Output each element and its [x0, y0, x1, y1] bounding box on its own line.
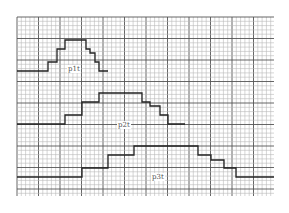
pulse-label-p1: p1t [67, 65, 81, 73]
graph-paper-diagram [0, 0, 289, 213]
pulse-label-p3: p3t [151, 173, 165, 181]
pulse-line-2 [17, 93, 185, 124]
pulse-label-p2: p2t [117, 121, 131, 129]
